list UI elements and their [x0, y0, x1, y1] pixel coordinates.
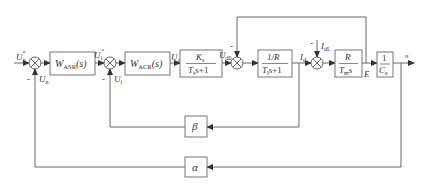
beta-label: β: [191, 120, 198, 132]
signal-ud0: Ud0: [219, 50, 232, 61]
alpha-label: α: [192, 161, 198, 173]
summing-junction-current: [104, 57, 116, 69]
signal-idl: IdL: [320, 41, 331, 52]
signal-e: E: [363, 69, 370, 79]
summing-junction-emf: [231, 57, 243, 69]
emf-numerator: 1: [382, 53, 387, 63]
summing-junction-speed: [29, 57, 41, 69]
signal-un-star: Un*: [16, 50, 26, 63]
signal-ui: Ui: [114, 74, 123, 85]
signal-n: n: [405, 52, 409, 60]
minus-sign-emf: -: [230, 41, 233, 51]
minus-sign-current: -: [102, 74, 105, 84]
signal-uc: Uc: [171, 52, 181, 63]
mechanical-numerator: R: [344, 52, 351, 62]
converter-denominator: Tss+1: [188, 65, 208, 76]
summing-junction-load: [311, 57, 323, 69]
signal-ui-star: Ui*: [94, 48, 104, 61]
control-block-diagram: WASR(s) WACR(s) Ks Tss+1 1/R Tls+1 R Tms…: [0, 0, 425, 186]
minus-sign-load: -: [310, 38, 313, 48]
armature-denominator: Tls+1: [262, 65, 282, 76]
armature-numerator: 1/R: [267, 52, 280, 62]
signal-id: Id: [299, 52, 306, 63]
signal-un: Un: [39, 74, 49, 85]
minus-sign-speed: -: [27, 74, 30, 84]
